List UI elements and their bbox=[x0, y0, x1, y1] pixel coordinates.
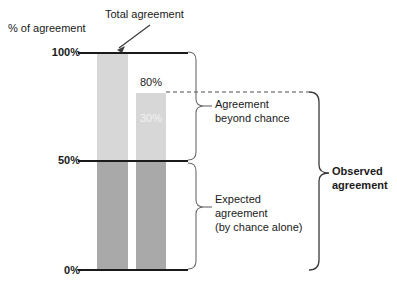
bracket-observed-agreement bbox=[309, 92, 329, 270]
bracket-expected-line3: (by chance alone) bbox=[215, 221, 302, 234]
bracket-expected-line2: agreement bbox=[215, 207, 268, 220]
bracket-expected-line1: Expected bbox=[215, 193, 261, 206]
bar-1-upper-segment bbox=[97, 54, 128, 160]
bracket-observed-line2: agreement bbox=[332, 179, 388, 192]
bar-2-upper-segment bbox=[136, 93, 166, 160]
callout-total-agreement-label: Total agreement bbox=[105, 8, 184, 21]
bracket-beyond-chance bbox=[188, 52, 212, 160]
gridline-0 bbox=[78, 269, 188, 271]
figure-canvas: % of agreement 100% 50% 0% 30% 80% Total… bbox=[0, 0, 397, 287]
bar-2-lower-segment bbox=[136, 162, 166, 270]
tick-label-0: 0% bbox=[38, 264, 80, 277]
tick-label-100: 100% bbox=[38, 46, 80, 59]
bar-1-lower-segment bbox=[97, 162, 128, 270]
total-agreement-arrow bbox=[117, 25, 150, 53]
figure-vector-overlay bbox=[0, 0, 397, 287]
bar-2-value-label: 80% bbox=[132, 76, 170, 89]
tick-label-50: 50% bbox=[38, 154, 80, 167]
gridline-100 bbox=[78, 52, 188, 54]
bracket-observed-line1: Observed bbox=[332, 165, 383, 178]
bracket-beyond-chance-line1: Agreement bbox=[215, 98, 269, 111]
bracket-expected-agreement bbox=[188, 163, 212, 269]
bar-2-inline-value: 30% bbox=[136, 112, 166, 125]
gridline-50 bbox=[78, 160, 188, 162]
bracket-beyond-chance-line2: beyond chance bbox=[215, 112, 290, 125]
axis-title: % of agreement bbox=[8, 22, 86, 35]
